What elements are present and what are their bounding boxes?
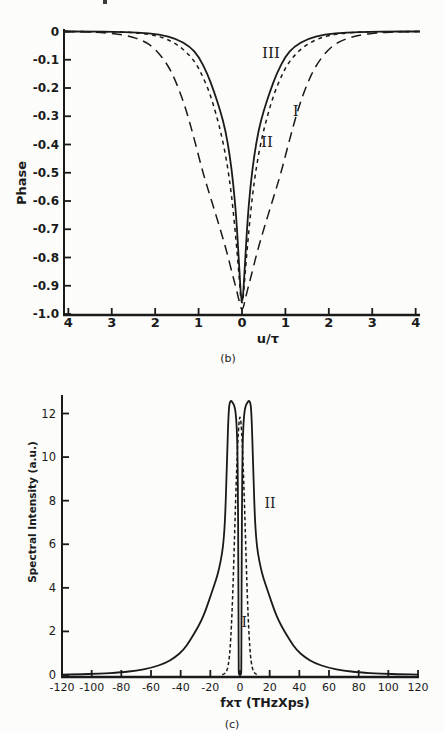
x-tick-label: -120 — [50, 681, 75, 694]
y-tick-label: -0.8 — [33, 251, 59, 265]
y-tick-label: 0 — [51, 25, 59, 39]
series-II-label: II — [264, 495, 275, 511]
y-tick-label: -1.0 — [33, 307, 59, 321]
x-tick-label: 4 — [411, 315, 420, 330]
series-I-label: I — [241, 614, 247, 630]
x-axis-label: u/τ — [257, 331, 279, 346]
chart-caption: (b) — [220, 352, 236, 365]
y-tick-label: -0.1 — [33, 53, 59, 67]
y-tick-label: 0 — [49, 668, 56, 682]
y-tick-label: 2 — [49, 624, 56, 638]
chart-c: -120-100-80-60-40-2002040608010012002468… — [26, 395, 429, 731]
y-tick-label: -0.9 — [33, 279, 59, 293]
x-tick-label: 0 — [237, 315, 246, 330]
x-tick-label: 120 — [408, 681, 429, 694]
y-tick-label: -0.2 — [33, 81, 59, 95]
x-tick-label: -80 — [112, 681, 130, 694]
y-tick-label: -0.5 — [33, 166, 59, 180]
x-tick-label: 3 — [368, 315, 377, 330]
y-tick-label: -0.7 — [33, 222, 59, 236]
x-tick-label: 0 — [237, 681, 244, 694]
x-tick-label: 20 — [263, 681, 277, 694]
series-II-curve — [62, 401, 418, 675]
series-II-label: II — [261, 133, 273, 151]
y-tick-label: 8 — [49, 494, 56, 508]
x-tick-label: -60 — [142, 681, 160, 694]
x-tick-label: 60 — [322, 681, 336, 694]
x-tick-label: 4 — [64, 315, 73, 330]
x-tick-label: -40 — [172, 681, 190, 694]
figure-canvas: 4321012340-0.1-0.2-0.3-0.4-0.5-0.6-0.7-0… — [0, 0, 444, 732]
x-tick-label: 80 — [352, 681, 366, 694]
y-tick-label: -0.4 — [33, 138, 59, 152]
x-tick-label: 1 — [281, 315, 290, 330]
y-tick-label: 6 — [49, 537, 56, 551]
x-tick-label: 2 — [151, 315, 160, 330]
y-axis-label: Phase — [14, 161, 29, 205]
y-tick-label: -0.3 — [33, 109, 59, 123]
y-tick-label: 4 — [49, 581, 56, 595]
y-tick-label: -0.6 — [33, 194, 59, 208]
x-tick-label: 1 — [194, 315, 203, 330]
series-III-curve — [64, 32, 420, 302]
x-axis-label: fxτ (THzXps) — [220, 695, 310, 710]
x-tick-label: 40 — [292, 681, 306, 694]
series-I-label: I — [293, 102, 299, 120]
y-tick-label: 12 — [41, 407, 56, 421]
x-tick-label: 3 — [107, 315, 116, 330]
series-III-label: III — [262, 44, 280, 62]
chart-b: 4321012340-0.1-0.2-0.3-0.4-0.5-0.6-0.7-0… — [14, 25, 420, 366]
y-tick-label: 10 — [41, 450, 56, 464]
cropped-mark — [103, 0, 107, 4]
x-tick-label: 100 — [378, 681, 399, 694]
series-I-curve — [64, 32, 420, 310]
chart-caption: (c) — [225, 718, 240, 731]
series-II-curve — [64, 32, 420, 303]
figure-page: 4321012340-0.1-0.2-0.3-0.4-0.5-0.6-0.7-0… — [0, 0, 444, 732]
x-tick-label: -20 — [201, 681, 219, 694]
y-axis-label: Spectral Intensity (a.u.) — [26, 441, 38, 582]
x-tick-label: 2 — [324, 315, 333, 330]
x-tick-label: -100 — [79, 681, 104, 694]
